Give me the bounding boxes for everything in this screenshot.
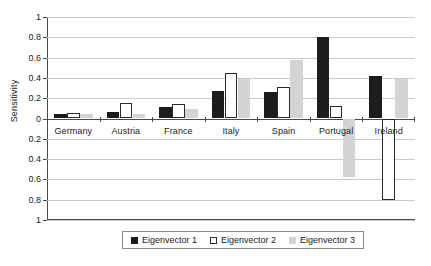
y-axis-tick [43, 220, 47, 221]
y-axis-tick [43, 17, 47, 18]
plot-area: 10.80.60.40.200.20.40.60.81GermanyAustri… [47, 17, 415, 220]
bar-ireland-eigenvector-1 [369, 76, 382, 119]
legend-label-eigenvector-3: Eigenvector 3 [300, 235, 355, 245]
y-axis-tick-label: 1 [36, 216, 41, 225]
x-axis-tick [47, 117, 48, 122]
bar-france-eigenvector-3 [185, 109, 198, 118]
bar-spain-eigenvector-2 [277, 87, 290, 118]
x-axis-tick [310, 117, 311, 122]
y-axis-tick [43, 200, 47, 201]
chart-legend: Eigenvector 1 Eigenvector 2 Eigenvector … [122, 231, 364, 249]
bar-austria-eigenvector-1 [107, 112, 120, 118]
y-axis-tick [43, 159, 47, 160]
bar-italy-eigenvector-1 [212, 91, 225, 118]
y-axis-tick-label: 0 [36, 114, 41, 123]
gridline [47, 17, 415, 18]
x-axis-category-label-portugal: Portugal [310, 126, 363, 136]
legend-label-eigenvector-2: Eigenvector 2 [221, 235, 276, 245]
x-axis-category-label-france: France [152, 126, 205, 136]
x-axis-tick [362, 117, 363, 122]
y-axis-tick-label: 0.8 [28, 195, 41, 204]
y-axis-tick [43, 78, 47, 79]
bar-austria-eigenvector-2 [120, 103, 133, 118]
gridline [47, 139, 415, 140]
bar-italy-eigenvector-3 [238, 79, 251, 119]
legend-item-eigenvector-1: Eigenvector 1 [131, 235, 197, 245]
y-axis-tick [43, 98, 47, 99]
y-axis-tick-label: 0.6 [28, 175, 41, 184]
gridline [47, 200, 415, 201]
legend-swatch-icon-eigenvector-3 [289, 237, 296, 244]
legend-swatch-icon-eigenvector-1 [131, 237, 138, 244]
bar-germany-eigenvector-1 [54, 114, 67, 118]
x-axis-category-label-germany: Germany [47, 126, 100, 136]
x-axis-category-label-italy: Italy [205, 126, 258, 136]
bar-germany-eigenvector-3 [80, 114, 93, 118]
y-axis-tick-label: 0.4 [28, 73, 41, 82]
y-axis-tick-label: 0.8 [28, 33, 41, 42]
bar-austria-eigenvector-3 [133, 114, 146, 118]
y-axis-tick-label: 0.6 [28, 53, 41, 62]
x-axis-category-label-austria: Austria [100, 126, 153, 136]
y-axis-tick [43, 139, 47, 140]
bar-germany-eigenvector-2 [67, 113, 80, 118]
x-axis-tick [100, 117, 101, 122]
legend-item-eigenvector-2: Eigenvector 2 [210, 235, 276, 245]
x-axis-tick [152, 117, 153, 122]
y-axis-tick-label: 0.2 [28, 94, 41, 103]
bar-france-eigenvector-1 [159, 107, 172, 118]
x-axis-tick [205, 117, 206, 122]
x-axis-tick [257, 117, 258, 122]
zero-axis-line [47, 119, 415, 120]
y-axis-tick [43, 58, 47, 59]
legend-swatch-icon-eigenvector-2 [210, 237, 217, 244]
gridline [47, 37, 415, 38]
bar-spain-eigenvector-3 [290, 60, 303, 119]
bar-france-eigenvector-2 [172, 104, 185, 118]
gridline [47, 58, 415, 59]
gridline [47, 179, 415, 180]
y-axis-tick [43, 37, 47, 38]
y-axis-tick-label: 0.2 [28, 134, 41, 143]
y-axis-tick [43, 179, 47, 180]
gridline [47, 220, 415, 221]
bar-ireland-eigenvector-3 [395, 79, 408, 119]
y-axis-tick-label: 0.4 [28, 155, 41, 164]
bar-spain-eigenvector-1 [264, 92, 277, 118]
x-axis-category-label-ireland: Ireland [362, 126, 415, 136]
legend-label-eigenvector-1: Eigenvector 1 [142, 235, 197, 245]
bar-italy-eigenvector-2 [225, 73, 238, 119]
y-axis-tick-label: 1 [36, 13, 41, 22]
legend-item-eigenvector-3: Eigenvector 3 [289, 235, 355, 245]
x-axis-tick [414, 117, 415, 122]
y-axis-title: Sensitivity [9, 61, 19, 141]
x-axis-category-label-spain: Spain [257, 126, 310, 136]
bar-portugal-eigenvector-1 [317, 37, 330, 118]
bar-portugal-eigenvector-2 [330, 106, 343, 118]
sensitivity-bar-chart: Sensitivity 10.80.60.40.200.20.40.60.81G… [0, 0, 431, 266]
gridline [47, 159, 415, 160]
